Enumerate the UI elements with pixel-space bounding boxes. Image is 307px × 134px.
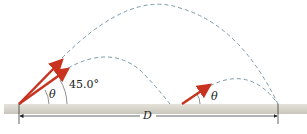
- velocity-arrow-right: [182, 85, 210, 104]
- distance-label: D: [143, 109, 152, 122]
- ground: [4, 104, 307, 114]
- trajectory-right: [210, 79, 278, 104]
- theta-left-label: θ: [49, 88, 56, 101]
- theta-right-label: θ: [211, 90, 218, 103]
- angle-45-label: 45.0°: [69, 78, 99, 91]
- projectile-diagram: [0, 0, 307, 134]
- angle-arc-45: [60, 80, 67, 104]
- angle-arc-theta-right: [197, 94, 200, 104]
- velocity-arrow-45: [19, 69, 68, 104]
